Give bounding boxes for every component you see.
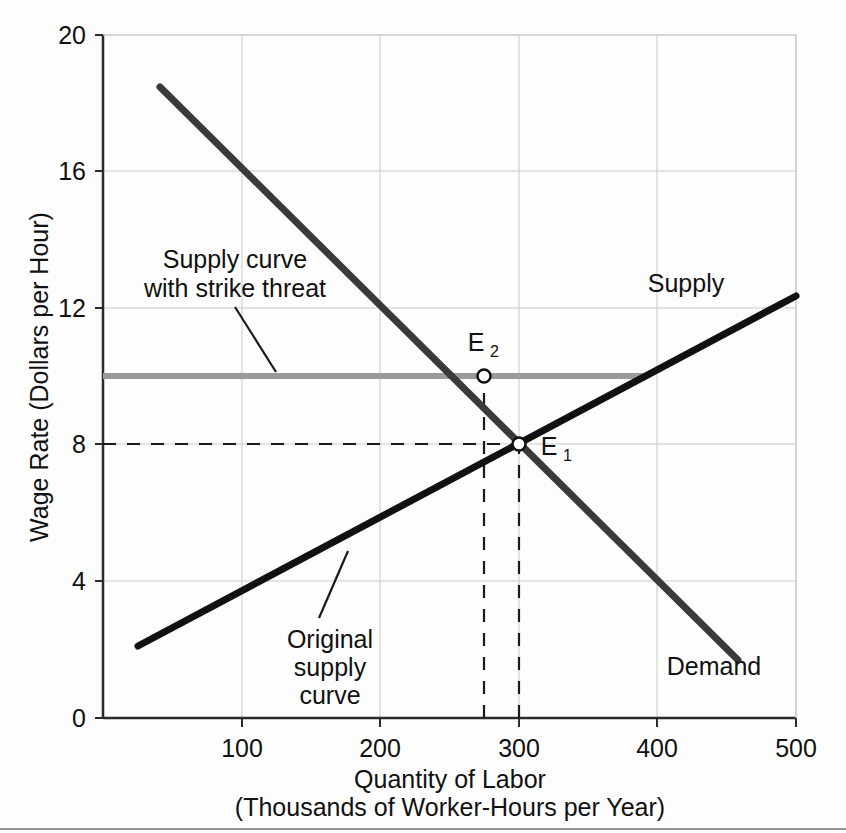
equilibrium-label-e1-subscript: 1 [563, 447, 572, 464]
strike-threat-annotation-line2: with strike threat [143, 274, 326, 302]
original-supply-annotation-line3: curve [299, 681, 360, 709]
equilibrium-marker-e1 [513, 438, 526, 451]
y-tick-label-12: 12 [58, 294, 86, 322]
original-supply-annotation-line1: Original [287, 625, 373, 653]
supply-curve-label: Supply [648, 269, 725, 297]
y-tick-label-4: 4 [72, 567, 86, 595]
equilibrium-label-e2-subscript: 2 [490, 343, 499, 360]
supply-demand-chart: 20 16 12 8 4 0 100 200 300 400 500 Wage … [0, 0, 846, 833]
y-tick-label-16: 16 [58, 157, 86, 185]
y-axis-title: Wage Rate (Dollars per Hour) [25, 212, 53, 542]
figure-page: 20 16 12 8 4 0 100 200 300 400 500 Wage … [0, 0, 846, 833]
strike-threat-annotation-line1: Supply curve [163, 245, 308, 273]
original-supply-annotation-line2: supply [294, 653, 367, 681]
y-tick-label-8: 8 [72, 430, 86, 458]
x-tick-label-300: 300 [498, 734, 540, 762]
x-tick-label-400: 400 [636, 734, 678, 762]
equilibrium-label-e2-base: E [468, 328, 485, 356]
chart-background [0, 0, 846, 833]
x-tick-label-500: 500 [775, 734, 817, 762]
x-tick-label-200: 200 [359, 734, 401, 762]
equilibrium-label-e1-base: E [541, 432, 558, 460]
x-axis-title-line2: (Thousands of Worker-Hours per Year) [235, 793, 665, 821]
demand-curve-label: Demand [667, 652, 762, 680]
x-tick-label-100: 100 [221, 734, 263, 762]
y-tick-label-20: 20 [58, 21, 86, 49]
y-tick-label-0: 0 [72, 704, 86, 732]
x-axis-title-line1: Quantity of Labor [354, 765, 546, 793]
equilibrium-marker-e2 [478, 370, 491, 383]
